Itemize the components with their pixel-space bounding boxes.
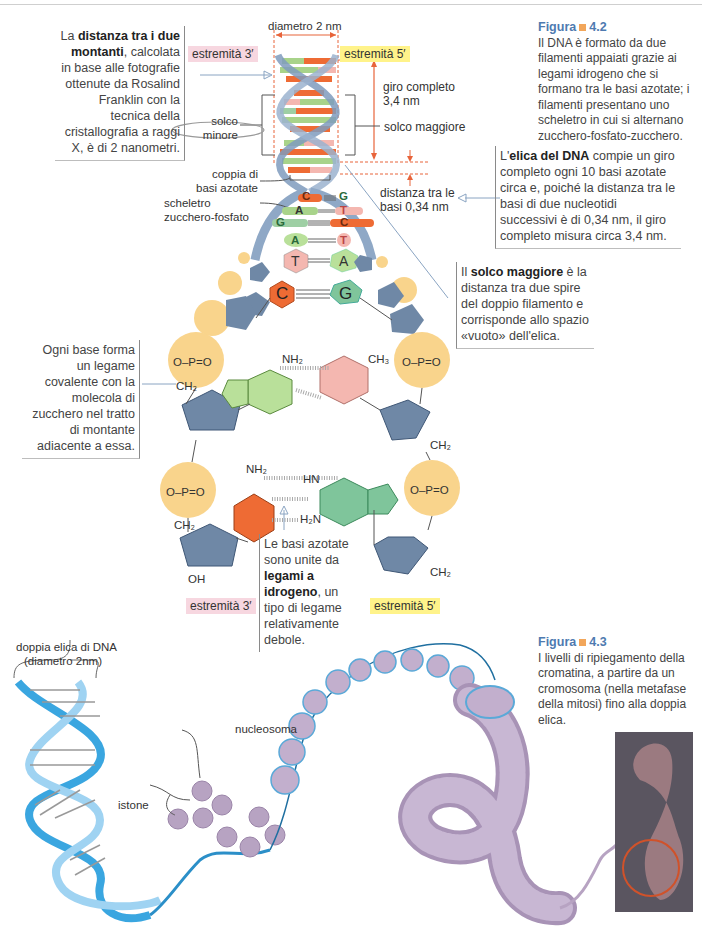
full-turn-label: giro completo 3,4 nm — [383, 80, 455, 108]
phosphate-label-3: O–P=O — [166, 485, 205, 499]
base-pair-4-right: T — [340, 233, 347, 247]
base-pair-5-right: A — [339, 253, 348, 269]
end-5-tag-top: estremità 5′ — [340, 46, 410, 62]
phosphate-label-4: O–P=O — [410, 483, 449, 497]
ch2-label-2: CH₂ — [174, 518, 195, 532]
phosphate-label-2: O–P=O — [402, 355, 441, 369]
end-5-tag-bottom: estremità 5′ — [370, 598, 440, 614]
base-pair-4-left: A — [291, 233, 299, 247]
base-pair-6-right: G — [339, 284, 352, 304]
base-pair-label: coppia di basi azotate — [180, 167, 258, 195]
diameter-label: diametro 2 nm — [268, 19, 342, 33]
base-pair-1-left: C — [302, 189, 310, 203]
callout-strand-distance: La distanza tra i due montanti, calcolat… — [55, 26, 185, 161]
base-pair-2-left: A — [295, 203, 303, 217]
h2n-label: H₂N — [300, 512, 321, 526]
ch2-label-3: CH₂ — [430, 438, 451, 452]
base-pair-1-right: G — [339, 189, 348, 203]
callout-hydrogen-bonds: Le basi azotate sono unite da legami a i… — [259, 534, 355, 652]
callout-major-groove: Il solco maggiore è la distanza tra due … — [456, 262, 594, 349]
base-pair-3-left: G — [276, 215, 285, 229]
ch2-label-1: CH₂ — [176, 379, 197, 393]
figure-4-3-caption: Figura4.3 I livelli di ripiegamento dell… — [538, 635, 698, 728]
callout-helix-turn: L'elica del DNA compie un giro completo … — [495, 146, 681, 249]
base-distance-label: distanza tra le basi 0,34 nm — [380, 186, 455, 214]
base-pair-6-left: C — [276, 284, 288, 304]
nh2-label-2: NH₂ — [246, 462, 267, 476]
nh2-label-1: NH₂ — [282, 352, 303, 366]
caption-square-icon — [579, 639, 586, 646]
oh-label: OH — [188, 572, 205, 586]
ch2-label-4: CH₂ — [430, 565, 451, 579]
figure-4-2-caption: Figura4.2 Il DNA è formato da due filame… — [538, 20, 698, 144]
minor-groove-label: solco minore — [196, 114, 238, 142]
dna-double-helix-label: doppia elica di DNA (diametro 2nm) — [16, 640, 117, 668]
end-3-tag-top: estremità 3′ — [188, 46, 258, 62]
histone-label: istone — [118, 798, 149, 812]
hn-label: HN — [303, 472, 320, 486]
ch3-label: CH₃ — [368, 352, 389, 366]
nucleosome-label: nucleosoma — [235, 722, 297, 736]
two-nanometers-highlight: 2 nanometri. — [111, 141, 180, 155]
phosphate-label-1: O–P=O — [173, 355, 212, 369]
base-pair-3-right: C — [340, 215, 348, 229]
end-3-tag-bottom: estremità 3′ — [186, 598, 256, 614]
major-groove-label: solco maggiore — [384, 120, 465, 134]
caption-square-icon — [579, 24, 586, 31]
backbone-label: scheletro zucchero-fosfato — [164, 196, 249, 224]
base-pair-5-left: T — [291, 253, 300, 269]
callout-covalent-bond: Ogni base forma un legame covalente con … — [22, 340, 140, 459]
